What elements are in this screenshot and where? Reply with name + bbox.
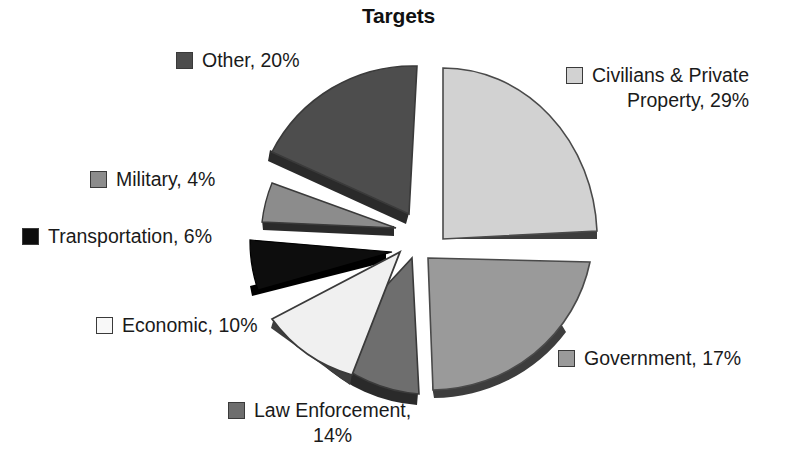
callout-military: Military, 4% [90,167,215,192]
callout-government-text: Government, 17% [584,346,741,371]
callout-civilians-line2: Property, 29% [592,88,749,113]
callout-transportation-line1: Transportation, 6% [48,224,212,249]
swatch-law-enforcement-icon [228,402,245,419]
callout-transportation-text: Transportation, 6% [48,224,212,249]
callout-law-enforcement-line2: 14% [254,423,411,448]
swatch-other-icon [176,52,193,69]
swatch-economic-icon [96,317,113,334]
swatch-transportation-icon [22,228,39,245]
callout-other: Other, 20% [176,48,300,73]
callout-law-enforcement-text: Law Enforcement, 14% [254,398,411,448]
callout-civilians-line1: Civilians & Private [592,63,749,88]
callout-government-line1: Government, 17% [584,346,741,371]
callout-civilians-text: Civilians & Private Property, 29% [592,63,749,113]
callout-economic-text: Economic, 10% [122,313,257,338]
callout-economic-line1: Economic, 10% [122,313,257,338]
swatch-government-icon [558,350,575,367]
callout-government: Government, 17% [558,346,741,371]
callout-other-line1: Other, 20% [202,48,300,73]
swatch-military-icon [90,171,107,188]
callout-law-enforcement-line1: Law Enforcement, [254,398,411,423]
callout-transportation: Transportation, 6% [22,224,212,249]
callout-civilians: Civilians & Private Property, 29% [566,63,749,113]
callout-other-text: Other, 20% [202,48,300,73]
callout-military-text: Military, 4% [116,167,215,192]
callout-military-line1: Military, 4% [116,167,215,192]
pie-chart: Targets [0,0,797,475]
callout-economic: Economic, 10% [96,313,257,338]
callout-law-enforcement: Law Enforcement, 14% [228,398,411,448]
swatch-civilians-icon [566,67,583,84]
